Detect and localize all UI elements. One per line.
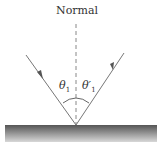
reflected-angle-arc <box>76 98 89 103</box>
incident-angle-symbol: θ <box>59 79 66 92</box>
incident-angle-subscript: 1 <box>66 86 70 94</box>
reflecting-surface <box>5 125 157 142</box>
normal-label: Normal <box>56 4 98 17</box>
reflection-diagram <box>0 0 162 144</box>
reflected-angle-subscript: 1 <box>91 86 95 94</box>
incident-angle-arc <box>63 98 76 103</box>
incident-angle-label: θ1 <box>59 79 70 94</box>
reflected-angle-symbol: θ′ <box>82 79 91 92</box>
reflected-angle-label: θ′1 <box>82 79 96 94</box>
